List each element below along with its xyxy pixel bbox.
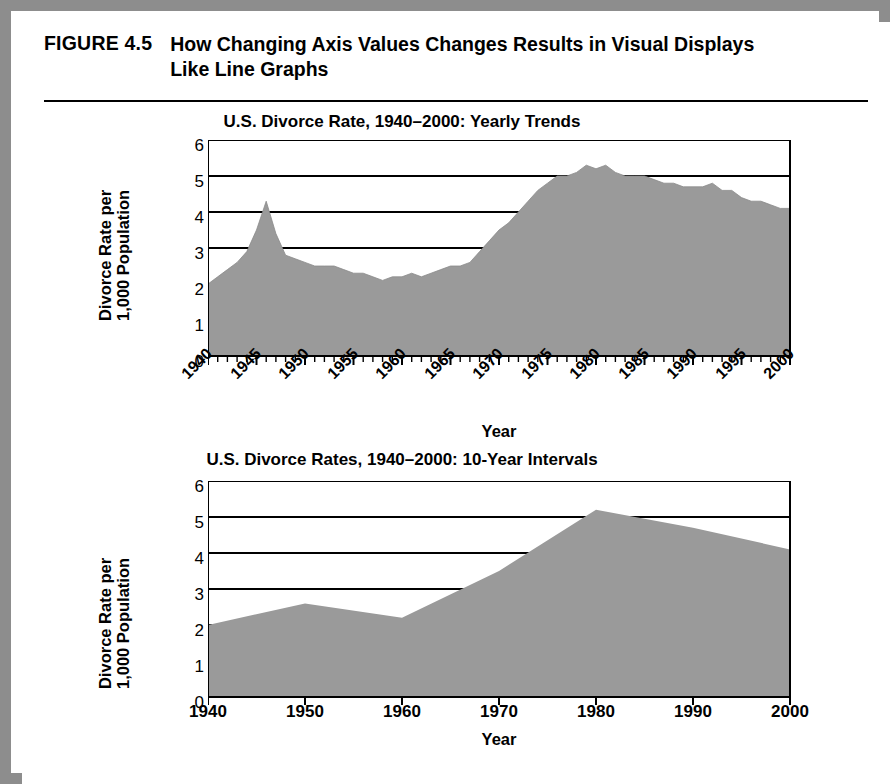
y-tick-4: 4 [182, 550, 204, 567]
y-tick-3: 3 [182, 245, 204, 262]
plot-area-yearly [208, 140, 804, 366]
y-axis-label-line2: 1,000 Population [114, 558, 132, 689]
x-tick-1980: 1980 [564, 702, 628, 722]
y-tick-5: 5 [182, 514, 204, 531]
y-tick-2: 2 [182, 281, 204, 298]
x-tick-1950: 1950 [273, 702, 337, 722]
y-tick-4: 4 [182, 209, 204, 226]
y-tick-1: 1 [182, 658, 204, 675]
x-tick-1990: 1990 [661, 702, 725, 722]
y-axis-label-line1: Divorce Rate per [96, 558, 114, 689]
figure-frame: FIGURE 4.5 How Changing Axis Values Chan… [0, 0, 890, 784]
chart-yearly-trends: U.S. Divorce Rate, 1940–2000: Yearly Tre… [22, 22, 890, 352]
x-axis-label-intervals: Year [208, 730, 790, 749]
y-axis-label-yearly: Divorce Rate per 1,000 Population [96, 145, 133, 365]
y-tick-2: 2 [182, 622, 204, 639]
y-tick-1: 1 [182, 317, 204, 334]
x-tick-1970: 1970 [467, 702, 531, 722]
x-tick-1940: 1940 [176, 702, 240, 722]
chart-ten-year-intervals: U.S. Divorce Rates, 1940–2000: 10-Year I… [22, 440, 890, 770]
y-tick-3: 3 [182, 586, 204, 603]
y-axis-label-intervals: Divorce Rate per 1,000 Population [96, 513, 133, 733]
x-tick-2000: 2000 [758, 702, 822, 722]
y-tick-6: 6 [182, 137, 204, 154]
chart-title-intervals: U.S. Divorce Rates, 1940–2000: 10-Year I… [22, 450, 782, 470]
y-tick-5: 5 [182, 173, 204, 190]
plot-area-intervals [208, 481, 804, 711]
area-series-yearly [208, 165, 790, 356]
x-axis-label-yearly: Year [208, 422, 790, 441]
y-tick-6: 6 [182, 478, 204, 495]
chart-title-yearly: U.S. Divorce Rate, 1940–2000: Yearly Tre… [22, 112, 782, 132]
x-tick-1960: 1960 [370, 702, 434, 722]
y-axis-label-line2: 1,000 Population [114, 190, 132, 321]
y-axis-label-line1: Divorce Rate per [96, 190, 114, 321]
figure-inner: FIGURE 4.5 How Changing Axis Values Chan… [22, 22, 890, 784]
area-series-intervals [208, 510, 790, 697]
